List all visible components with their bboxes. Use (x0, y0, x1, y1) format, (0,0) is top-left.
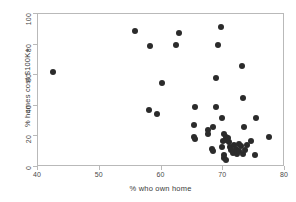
data-point (219, 115, 225, 121)
y-tick-mark (33, 74, 37, 75)
x-tick-label: 60 (149, 171, 173, 179)
x-tick-label: 80 (272, 171, 296, 179)
x-tick-mark (284, 166, 285, 170)
data-point (252, 152, 258, 158)
data-point (132, 28, 138, 34)
scatter-plot-figure: 020406080100 4050607080 % homes cost $10… (0, 0, 296, 202)
data-point (146, 107, 152, 113)
data-point (191, 122, 197, 128)
data-point (244, 142, 250, 148)
data-point (240, 95, 246, 101)
data-point (213, 75, 219, 81)
x-tick-mark (222, 166, 223, 170)
data-point (147, 43, 153, 49)
x-tick-label: 70 (210, 171, 234, 179)
data-point (192, 136, 198, 142)
x-tick-mark (99, 166, 100, 170)
x-tick-mark (37, 166, 38, 170)
y-tick-mark (33, 135, 37, 136)
y-tick-mark (33, 44, 37, 45)
data-point (253, 115, 259, 121)
x-axis-label: % who own home (37, 184, 284, 193)
data-point (50, 69, 56, 75)
data-point (223, 157, 229, 163)
data-point (219, 144, 225, 150)
data-point (176, 30, 182, 36)
y-tick-mark (33, 13, 37, 14)
data-point (218, 24, 224, 30)
y-axis-label: % homes cost $100K+ (23, 18, 32, 158)
plot-area (37, 13, 284, 166)
data-points-layer (38, 14, 283, 165)
data-point (159, 80, 165, 86)
data-point (239, 63, 245, 69)
data-point (241, 124, 247, 130)
x-tick-mark (161, 166, 162, 170)
data-point (205, 131, 211, 137)
data-point (210, 124, 216, 130)
y-tick-mark (33, 105, 37, 106)
data-point (266, 134, 272, 140)
data-point (215, 42, 221, 48)
data-point (173, 42, 179, 48)
data-point (154, 111, 160, 117)
x-tick-label: 40 (25, 171, 49, 179)
data-point (192, 104, 198, 110)
data-point (210, 148, 216, 154)
x-tick-label: 50 (87, 171, 111, 179)
data-point (213, 104, 219, 110)
